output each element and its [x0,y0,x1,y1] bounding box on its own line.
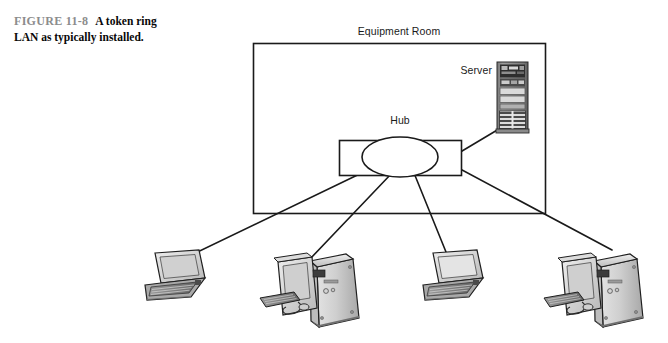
equipment-room-label: Equipment Room [358,25,441,37]
pc2-drive-bay [324,280,338,283]
pc2-power-button [324,289,329,294]
hub-ring [362,137,438,177]
server-node: Server [460,62,529,133]
pc3-screen [438,255,477,279]
pc2-screw-b [348,265,351,268]
pc4-mouse [583,304,593,310]
pc4-connector-block [597,270,609,277]
link-hub-pc4 [449,163,612,250]
pc4-drive-bay [608,280,622,283]
desktop-pc2 [260,253,359,327]
link-hub-pc3 [414,173,446,252]
server-led-b [509,67,518,70]
link-hub-pc2 [310,173,392,259]
pc1-screen [160,255,199,279]
pc2-screw-c [320,316,323,319]
server-led-a [502,66,508,70]
pc2-screw-d [350,310,353,313]
server-mid-button-c [519,81,525,85]
pc1-side-port [195,280,201,285]
pc2-connector-block [313,270,325,277]
server-drive-slot-1 [502,72,516,75]
figure-container: FIGURE 11-8A token ring LAN as typically… [0,0,668,343]
pc4-power-button [608,289,613,294]
network-diagram: Equipment Room Hub Server [0,0,668,343]
server-bay-3 [500,104,525,109]
server-mid-button-a [502,81,510,85]
pc3-side-port [473,280,479,285]
server-mid-button-b [511,81,517,85]
laptop-pc1 [145,250,205,300]
pc4-screw-d [634,310,637,313]
pc4-screw-c [604,316,607,319]
pc2-reset-button [331,288,335,292]
pc4-reset-button [615,288,619,292]
laptop-pc3 [423,250,483,300]
pc2-mouse [299,304,309,310]
server-bay-1 [500,88,525,95]
hub-node: Hub [340,114,462,177]
server-led-c [520,66,525,70]
server-bay-2 [500,96,525,103]
server-base [496,129,529,133]
server-label: Server [460,64,492,76]
pc4-screw-b [632,265,635,268]
server-drive-slot-2 [517,72,524,75]
desktop-pc4 [544,253,643,327]
hub-label: Hub [390,114,410,126]
